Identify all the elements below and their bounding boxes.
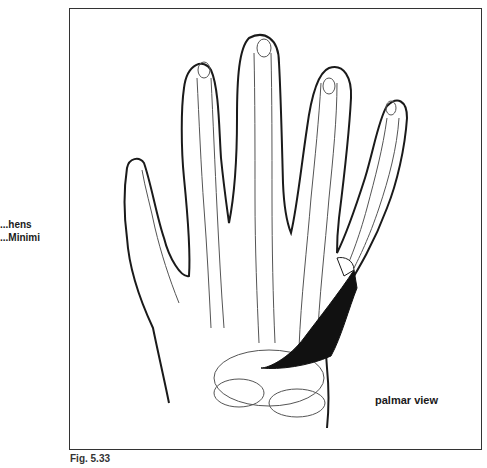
muscle-label-line1: ...hens [0,218,40,231]
muscle-shape [261,270,357,369]
figure-caption: Fig. 5.33 [70,453,110,464]
muscle-label: ...hens ...Minimi [0,218,40,244]
muscle-label-line2: ...Minimi [0,231,40,244]
hand-illustration [69,8,482,450]
hand-outline [124,35,407,428]
view-label: palmar view [375,394,438,406]
